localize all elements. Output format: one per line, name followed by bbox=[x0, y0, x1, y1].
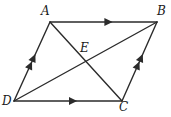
vertex-label-d: D bbox=[2, 95, 12, 107]
arrow-mark-dc-1 bbox=[69, 97, 77, 105]
vertex-label-a: A bbox=[41, 5, 50, 17]
arrow-mark-ab-1 bbox=[104, 18, 112, 26]
parallelogram-diagram bbox=[0, 0, 171, 117]
geometry-figure: A B C D E bbox=[0, 0, 171, 117]
vertex-label-b: B bbox=[157, 5, 166, 17]
vertex-label-e: E bbox=[80, 42, 89, 54]
vertex-label-c: C bbox=[119, 101, 128, 113]
